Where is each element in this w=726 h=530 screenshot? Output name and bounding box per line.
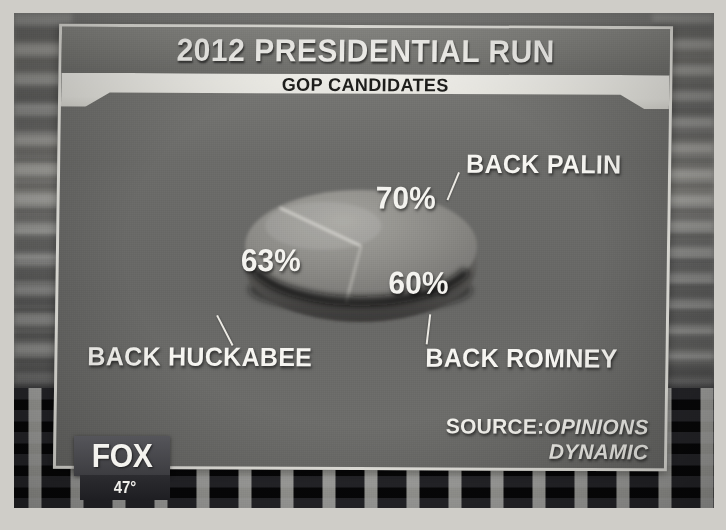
- source-prefix: SOURCE:: [446, 414, 545, 437]
- source-name-line-1: OPINIONS: [544, 415, 649, 438]
- title-band: 2012 PRESIDENTIAL RUN: [61, 27, 670, 76]
- pie-value-label-palin: 70%: [375, 180, 436, 216]
- network-bug: FOX 47°: [74, 436, 170, 500]
- slice-divider-right: [361, 246, 477, 247]
- source-credit: SOURCE:OPINIONS DYNAMIC: [445, 414, 648, 464]
- fox-logo: FOX: [74, 436, 170, 476]
- fox-logo-text: FOX: [92, 438, 152, 475]
- pie-value-label-huckabee: 63%: [241, 243, 302, 279]
- page-subtitle: GOP CANDIDATES: [282, 74, 449, 96]
- pie-callout-romney: BACK ROMNEY: [425, 343, 618, 374]
- temperature-bug: 47°: [80, 475, 170, 500]
- page-title: 2012 PRESIDENTIAL RUN: [176, 32, 555, 70]
- temperature-value: 47°: [114, 478, 137, 496]
- source-name-line-2: DYNAMIC: [445, 439, 648, 464]
- pie-callout-palin: BACK PALIN: [466, 149, 622, 180]
- source-credit-line-1: SOURCE:OPINIONS: [446, 414, 649, 439]
- pie-value-label-romney: 60%: [388, 265, 449, 301]
- tv-screen: 2012 PRESIDENTIAL RUN GOP CANDIDATES: [14, 13, 714, 508]
- photo-frame: 2012 PRESIDENTIAL RUN GOP CANDIDATES: [0, 0, 726, 530]
- graphic-panel: 2012 PRESIDENTIAL RUN GOP CANDIDATES: [53, 24, 673, 472]
- pie-callout-huckabee: BACK HUCKABEE: [87, 341, 312, 372]
